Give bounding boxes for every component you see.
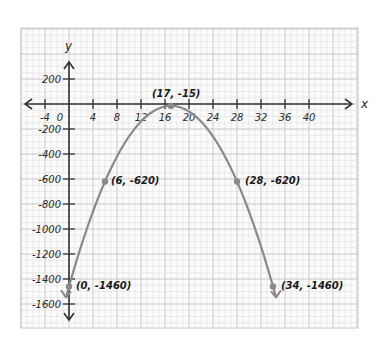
data-point — [168, 103, 174, 109]
x-tick-label: 0 — [57, 112, 63, 123]
y-tick-label: -1000 — [32, 224, 61, 235]
x-tick-label: 24 — [207, 112, 220, 123]
point-label-6: (6, -620) — [111, 175, 159, 186]
x-tick-label: 4 — [90, 112, 96, 123]
x-axis-label: x — [360, 97, 369, 111]
data-point — [66, 283, 72, 289]
point-label-28: (28, -620) — [245, 175, 300, 186]
x-tick-label: 16 — [159, 112, 172, 123]
y-tick-label: 200 — [42, 74, 61, 85]
y-tick-label: -400 — [38, 149, 61, 160]
x-tick-label: 40 — [303, 112, 316, 123]
y-axis-label: y — [64, 39, 73, 53]
parabola-chart: -40481216202428323640200-200-400-600-800… — [0, 0, 379, 351]
y-tick-label: -600 — [38, 174, 61, 185]
point-label-0: (0, -1460) — [76, 280, 131, 291]
y-tick-label: -1600 — [32, 299, 61, 310]
y-tick-label: -1200 — [32, 249, 61, 260]
x-tick-label: 36 — [279, 112, 292, 123]
data-point — [102, 178, 108, 184]
x-tick-label: 28 — [231, 112, 244, 123]
x-tick-label: -4 — [40, 112, 50, 123]
data-point — [270, 283, 276, 289]
point-label-34: (34, -1460) — [281, 280, 343, 291]
x-tick-label: 8 — [114, 112, 120, 123]
y-tick-label: -800 — [38, 199, 61, 210]
x-tick-label: 32 — [255, 112, 268, 123]
data-point — [234, 178, 240, 184]
point-label-vertex: (17, -15) — [152, 88, 200, 99]
y-tick-label: -1400 — [32, 274, 61, 285]
y-tick-label: -200 — [38, 124, 61, 135]
